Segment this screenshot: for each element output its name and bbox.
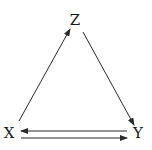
edge-z-to-y-arrow: [83, 32, 134, 125]
edge-x-to-z-arrow: [19, 29, 70, 121]
node-z-label: Z: [70, 13, 80, 28]
node-y-label: Y: [133, 126, 143, 141]
node-x-label: X: [4, 126, 15, 141]
causal-triangle-diagram: Z X Y: [0, 0, 152, 150]
